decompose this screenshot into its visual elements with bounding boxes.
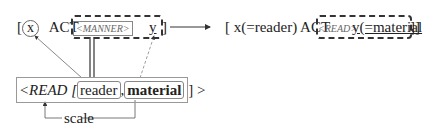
left-structure: [x ACT <box>17 19 79 37</box>
arg-material: material <box>124 81 184 99</box>
y-variable: y <box>149 19 157 35</box>
root-suffix: ] > <box>188 82 205 98</box>
manner-constant: <MANNER> <box>73 21 133 36</box>
scale-line-left <box>45 102 62 118</box>
root-content: <READ [reader,material ] > <box>19 81 205 99</box>
close-brackets-right: ]] <box>410 19 420 35</box>
right-structure: [ x(=reader) ACT <box>225 19 330 35</box>
reader-to-x-arrow <box>35 36 82 78</box>
scale-label: scale <box>64 110 94 126</box>
arg-reader: reader <box>77 81 120 99</box>
x-variable-circled: x <box>22 20 39 37</box>
open-bracket-right: [ <box>225 19 230 35</box>
close-bracket: ] <box>162 19 167 35</box>
material-to-y-arrow <box>140 36 154 78</box>
read-root-prefix: <READ [ <box>19 82 77 98</box>
